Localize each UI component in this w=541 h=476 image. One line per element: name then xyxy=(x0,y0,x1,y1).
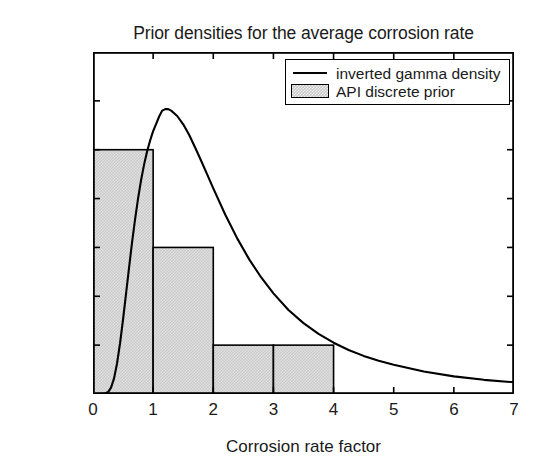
xtick-label-6: 6 xyxy=(449,400,458,420)
bar-2-3 xyxy=(213,345,273,394)
xtick-label-5: 5 xyxy=(389,400,398,420)
xtick-label-0: 0 xyxy=(88,400,97,420)
legend-label-api-discrete-prior: API discrete prior xyxy=(336,83,455,100)
legend-entry-api-discrete-prior[interactable]: API discrete prior xyxy=(291,82,504,100)
x-axis-label: Corrosion rate factor xyxy=(93,437,514,457)
legend-entry-inverted-gamma-density[interactable]: inverted gamma density xyxy=(291,64,504,82)
xtick-label-1: 1 xyxy=(148,400,157,420)
xtick-label-2: 2 xyxy=(209,400,218,420)
xtick-label-3: 3 xyxy=(269,400,278,420)
bar-1-2 xyxy=(153,247,213,394)
chart-figure: Prior densities for the average corrosio… xyxy=(0,0,541,476)
chart-title: Prior densities for the average corrosio… xyxy=(93,22,514,44)
legend-line-icon xyxy=(291,65,329,81)
legend-label-inverted-gamma-density: inverted gamma density xyxy=(336,65,501,82)
chart-legend[interactable]: inverted gamma density API discrete prio… xyxy=(285,59,510,105)
bar-0-1 xyxy=(93,150,153,394)
bar-3-4 xyxy=(273,345,333,394)
xtick-label-7: 7 xyxy=(509,400,518,420)
legend-patch-icon xyxy=(291,84,329,98)
xtick-label-4: 4 xyxy=(329,400,338,420)
